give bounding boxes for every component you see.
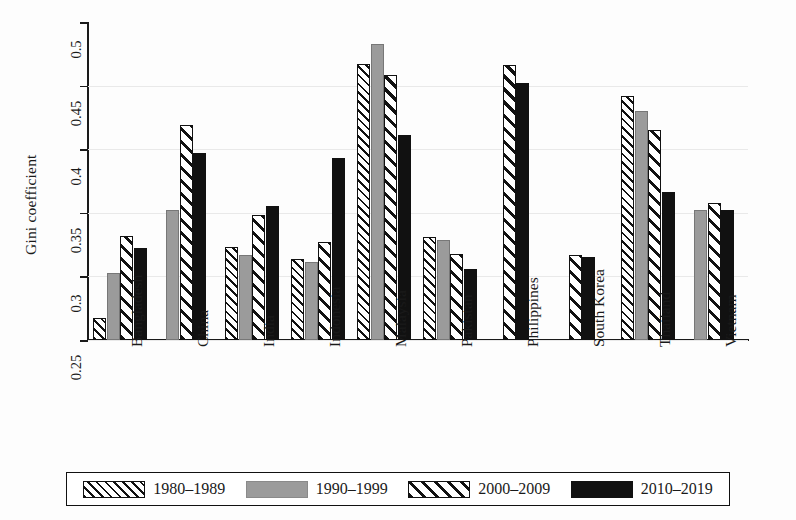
bar — [569, 255, 582, 340]
bar — [621, 96, 634, 340]
bar — [635, 111, 648, 340]
x-axis-label-south-korea: South Korea — [590, 269, 608, 347]
bar-group — [682, 22, 748, 340]
x-axis-label-malaysia: Malaysia — [392, 290, 410, 347]
y-axis-tick-label: 0.3 — [68, 276, 85, 332]
bar-group — [220, 22, 286, 340]
y-axis-tick-label: 0.45 — [68, 85, 85, 141]
legend-swatch-icon — [83, 481, 145, 498]
x-axis-label-indonesia: Indonesia — [326, 287, 344, 347]
legend-item: 1990–1999 — [246, 480, 388, 498]
y-axis-tick-label: 0.25 — [68, 340, 85, 396]
plot-area — [88, 22, 748, 340]
bar-group — [154, 22, 220, 340]
legend-item: 2000–2009 — [408, 480, 550, 498]
legend-label: 1990–1999 — [316, 480, 388, 498]
bar — [180, 125, 193, 340]
bar-group — [418, 22, 484, 340]
legend-label: 2010–2019 — [641, 480, 713, 498]
y-axis-tick-label: 0.35 — [68, 212, 85, 268]
bar — [503, 65, 516, 340]
y-axis-title: Gini coefficient — [22, 35, 40, 255]
bar — [371, 44, 384, 340]
bar — [357, 64, 370, 340]
y-axis-tick-label: 0.5 — [68, 22, 85, 78]
legend-label: 1980–1989 — [153, 480, 225, 498]
legend-label: 2000–2009 — [478, 480, 550, 498]
gridline — [88, 340, 748, 341]
legend-swatch-icon — [408, 481, 470, 498]
y-axis-tick-label: 0.4 — [68, 149, 85, 205]
legend-swatch-icon — [571, 481, 633, 498]
bar — [423, 237, 436, 340]
x-axis-label-vietnam: Vietnam — [722, 295, 740, 347]
legend-swatch-icon — [246, 481, 308, 498]
bar — [107, 273, 120, 340]
bar — [225, 247, 238, 340]
bar — [694, 210, 707, 340]
legend-item: 1980–1989 — [83, 480, 225, 498]
gini-coefficient-bar-chart: Gini coefficient 0.250.30.350.40.450.5 B… — [0, 0, 796, 520]
x-axis-label-thailand: Thailand — [656, 292, 674, 347]
bar — [305, 262, 318, 340]
x-axis-label-china: China — [194, 310, 212, 347]
x-axis-label-pakistan: Pakistan — [458, 294, 476, 347]
bar — [93, 318, 106, 340]
x-axis-label-philippines: Philippines — [524, 277, 542, 347]
x-axis-label-bangladesh: Bangladesh — [128, 275, 146, 347]
bar — [166, 210, 179, 340]
bar — [291, 259, 304, 340]
legend-item: 2010–2019 — [571, 480, 713, 498]
bar — [708, 203, 721, 340]
legend: 1980–19891990–19992000–20092010–2019 — [66, 472, 730, 506]
bar — [239, 255, 252, 340]
x-axis-label-india: India — [260, 315, 278, 347]
bar — [437, 240, 450, 340]
